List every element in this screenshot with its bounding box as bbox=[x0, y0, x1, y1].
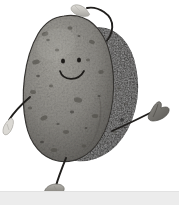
right-eye bbox=[77, 57, 81, 62]
potato-character-illustration bbox=[0, 0, 179, 205]
leg bbox=[56, 158, 66, 186]
scene-canvas bbox=[0, 0, 179, 205]
right-hand bbox=[148, 102, 169, 121]
raised-hand bbox=[71, 5, 89, 17]
left-eye bbox=[61, 58, 65, 63]
ground-strip bbox=[0, 191, 179, 205]
front-lobe bbox=[23, 15, 113, 161]
left-hand bbox=[3, 118, 13, 134]
